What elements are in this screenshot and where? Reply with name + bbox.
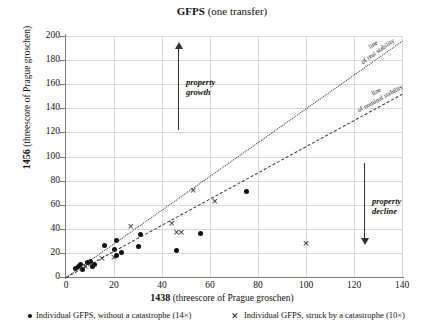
property-decline-line1: property [372,196,434,206]
property-growth-line1: property [186,77,246,87]
gridline-horizontal [66,205,402,206]
legend-item-without-catastrophe: Individual GFPS, without a catastrophe (… [28,310,191,320]
y-axis-tick-label: 40 [26,224,60,234]
y-axis-tick-mark [60,108,65,109]
chart-title-rest: (one transfer) [205,5,267,17]
data-point-cross [302,239,311,248]
y-axis-tick-label: 20 [26,248,60,258]
data-point-dot [198,231,203,236]
x-axis-tick-label: 120 [339,281,369,291]
gridline-horizontal [66,36,402,37]
property-growth-line2: growth [186,87,246,97]
legend-item-struck-by-catastrophe: ✕Individual GFPS, struck by a catastroph… [231,310,405,321]
data-point-dot [174,248,179,253]
y-axis-tick-label: 100 [26,152,60,162]
y-axis-tick-mark [60,84,65,85]
x-axis-label-bold: 1438 [150,292,170,303]
chart-title: GFPS (one transfer) [0,5,444,17]
y-axis-tick-label: 80 [26,176,60,186]
data-point-dot [114,253,119,258]
gridline-vertical [402,36,403,277]
y-axis-tick-mark [60,205,65,206]
y-axis-tick-label: 120 [26,127,60,137]
y-axis-tick-mark [60,253,65,254]
chart-legend: Individual GFPS, without a catastrophe (… [0,308,444,324]
property-growth-annotation: property growth [186,77,246,97]
x-axis-tick-label: 60 [195,281,225,291]
data-point-dot [136,244,141,249]
y-axis-tick-mark [60,229,65,230]
x-axis-tick-label: 80 [243,281,273,291]
y-axis-tick-mark [60,36,65,37]
legend-dot-icon [28,314,32,318]
y-axis-tick-label: 140 [26,103,60,113]
y-axis-tick-mark [60,60,65,61]
x-axis-tick-label: 40 [147,281,177,291]
data-point-cross [177,228,186,237]
gridline-horizontal [66,181,402,182]
property-decline-annotation: property decline [372,196,434,216]
x-axis-label-rest: (threescore of Prague groschen) [170,293,293,303]
y-axis-tick-mark [60,132,65,133]
property-growth-arrow-head-icon [175,42,183,49]
x-axis-tick-label: 140 [387,281,417,291]
y-axis-tick-label: 60 [26,200,60,210]
property-decline-line2: decline [372,206,434,216]
y-axis-tick-mark [60,277,65,278]
gridline-horizontal [66,108,402,109]
y-axis-tick-mark [60,157,65,158]
gridline-horizontal [66,229,402,230]
x-axis-tick-label: 0 [51,281,81,291]
y-axis-tick-label: 160 [26,79,60,89]
y-axis-tick-label: 200 [26,31,60,41]
y-axis-tick-label: 180 [26,55,60,65]
property-decline-arrow-head-icon [361,238,369,245]
legend-label-without-catastrophe: Individual GFPS, without a catastrophe (… [36,310,191,320]
property-growth-arrow-shaft [178,48,179,130]
gridline-horizontal [66,132,402,133]
property-decline-arrow-shaft [364,163,365,239]
chart-title-bold: GFPS [177,5,205,17]
data-point-dot [244,189,249,194]
x-axis-tick-label: 100 [291,281,321,291]
x-axis-line [65,277,404,278]
legend-cross-icon: ✕ [231,311,239,321]
x-axis-tick-label: 20 [99,281,129,291]
y-axis-tick-mark [60,181,65,182]
chart-container: GFPS (one transfer) 1456 (threescore of … [0,0,444,326]
legend-label-struck-by-catastrophe: Individual GFPS, struck by a catastrophe… [244,310,405,320]
y-axis-tick-label: 0 [26,272,60,282]
x-axis-label: 1438 (threescore of Prague groschen) [0,292,444,303]
